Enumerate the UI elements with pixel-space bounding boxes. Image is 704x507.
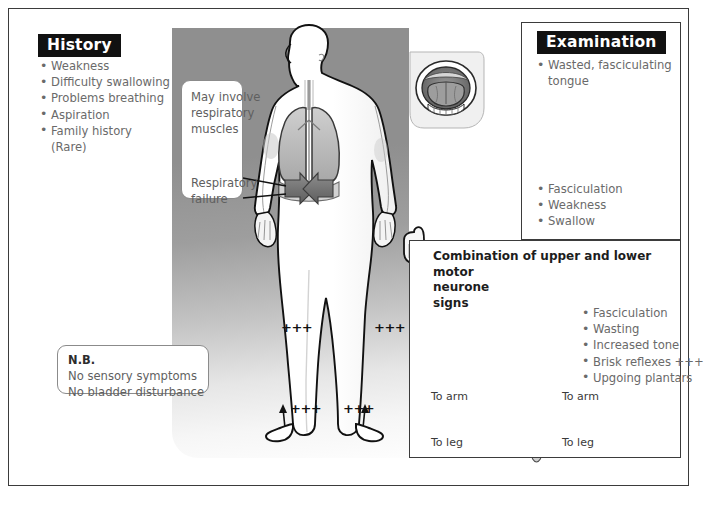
cord-label-leg-left: To leg xyxy=(431,436,463,449)
history-item: Family history xyxy=(40,123,170,139)
nb-box: N.B. No sensory symptoms No bladder dist… xyxy=(57,345,209,394)
callout-line: Respiratory xyxy=(191,175,242,191)
motor-signs-list: Fasciculation Wasting Increased tone Bri… xyxy=(582,305,704,386)
motor-panel-title-line: neurone xyxy=(433,280,673,296)
callout-line: muscles xyxy=(191,121,242,137)
nb-line: No sensory symptoms xyxy=(68,368,208,384)
examination-item: Weakness xyxy=(537,197,623,213)
reflex-mark-right-foot: +++ xyxy=(343,401,374,416)
examination-item-continuation: tongue xyxy=(537,73,672,89)
callout-line: May involve xyxy=(191,89,242,105)
cord-label-leg-right: To leg xyxy=(562,436,594,449)
motor-panel-title: Combination of upper and lower motor neu… xyxy=(433,249,673,311)
reflex-mark-right-knee: +++ xyxy=(374,320,405,335)
history-item: Weakness xyxy=(40,58,170,74)
motor-panel-title-line: Combination of upper and lower motor xyxy=(433,249,673,280)
respiratory-callout-box: May involve respiratory muscles Respirat… xyxy=(181,80,243,199)
history-item: Problems breathing xyxy=(40,90,170,106)
cord-label-arm-right: To arm xyxy=(562,390,599,403)
examination-heading: Examination xyxy=(537,31,666,54)
callout-line: failure xyxy=(191,191,242,207)
examination-item: Swallow xyxy=(537,213,623,229)
callout-line: respiratory xyxy=(191,105,242,121)
nb-title: N.B. xyxy=(68,352,208,368)
motor-sign-item: Fasciculation xyxy=(582,305,704,321)
history-list: Weakness Difficulty swallowing Problems … xyxy=(40,58,170,155)
nb-line: No bladder disturbance xyxy=(68,384,208,400)
motor-sign-item: Brisk reflexes +++ xyxy=(582,354,704,370)
motor-sign-item: Increased tone xyxy=(582,337,704,353)
examination-top-list: Wasted, fasciculating tongue xyxy=(537,57,672,89)
history-item: Aspiration xyxy=(40,107,170,123)
examination-item: Fasciculation xyxy=(537,181,623,197)
examination-bottom-list: Fasciculation Weakness Swallow xyxy=(537,181,623,230)
motor-sign-item: Wasting xyxy=(582,321,704,337)
reflex-mark-left-foot: +++ xyxy=(290,401,321,416)
history-item-continuation: (Rare) xyxy=(40,139,170,155)
reflex-mark-left-knee: +++ xyxy=(281,320,312,335)
cord-label-arm-left: To arm xyxy=(431,390,468,403)
history-heading: History xyxy=(38,34,121,57)
history-item: Difficulty swallowing xyxy=(40,74,170,90)
motor-sign-item: Upgoing plantars xyxy=(582,370,704,386)
examination-item: Wasted, fasciculating xyxy=(537,57,672,73)
